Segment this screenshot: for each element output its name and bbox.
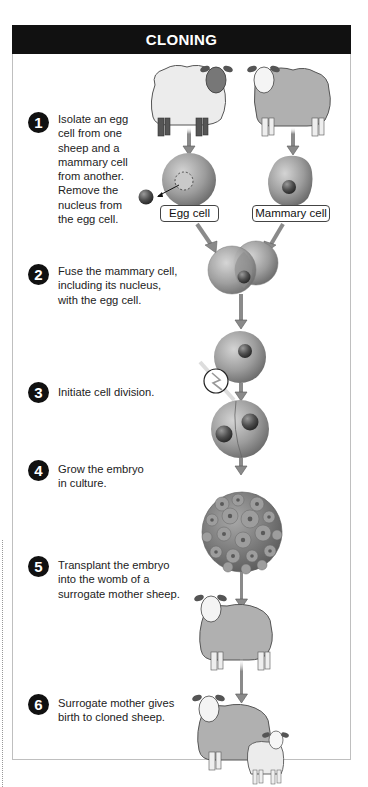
step-description: Fuse the mammary cell, including its nuc… <box>58 264 177 307</box>
step-6: 6 Surrogate mother gives birth to cloned… <box>28 694 174 725</box>
step-description: Surrogate mother gives birth to cloned s… <box>58 696 174 725</box>
step-number-badge: 6 <box>28 694 49 715</box>
egg-cell-icon <box>139 153 217 207</box>
egg-cell-label: Egg cell <box>160 205 219 222</box>
step-number-badge: 5 <box>28 556 49 577</box>
donor-sheep-mammary-icon <box>246 64 330 136</box>
embryo-icon <box>202 492 282 574</box>
step-number-badge: 2 <box>28 264 49 285</box>
step-description: Grow the embryo in culture. <box>58 462 144 491</box>
step-number-badge: 1 <box>28 112 49 133</box>
step-1: 1 Isolate an egg cell from one sheep and… <box>28 112 128 226</box>
step-description: Isolate an egg cell from one sheep and a… <box>58 112 128 226</box>
surrogate-sheep-icon <box>193 593 272 670</box>
step-number-badge: 3 <box>28 382 49 403</box>
step-5: 5 Transplant the embryo into the womb of… <box>28 556 180 601</box>
mammary-cell-icon <box>268 156 313 207</box>
step-number-badge: 4 <box>28 460 49 481</box>
step-description: Initiate cell division. <box>58 385 154 399</box>
fused-cell-icon <box>208 241 278 294</box>
donor-sheep-egg-icon <box>151 64 233 136</box>
two-cell-embryo-icon <box>211 400 269 458</box>
step-2: 2 Fuse the mammary cell, including its n… <box>28 264 177 307</box>
mammary-cell-label: Mammary cell <box>252 205 330 222</box>
step-4: 4 Grow the embryo in culture. <box>28 460 144 491</box>
step-3: 3 Initiate cell division. <box>28 382 154 403</box>
step-description: Transplant the embryo into the womb of a… <box>58 558 180 601</box>
